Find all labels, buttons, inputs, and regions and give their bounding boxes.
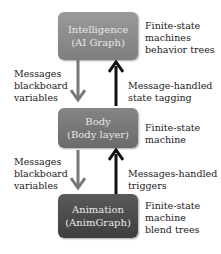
anim-to-body-label: Messages-handled triggers (128, 168, 217, 192)
animation-side-label: Finite-state machine blend trees (145, 200, 200, 236)
down-arrow-icon (70, 150, 86, 194)
body-subtitle: (Body layer) (58, 128, 138, 141)
up-arrow-icon (108, 148, 124, 194)
animation-subtitle: (AnimGraph) (58, 216, 138, 229)
body-to-anim-label: Messages blackboard variables (14, 156, 68, 192)
intelligence-box: Intelligence (AI Graph) (58, 12, 138, 60)
intel-to-body-label: Messages blackboard variables (14, 68, 68, 104)
body-to-intel-label: Message-handled state tagging (128, 80, 212, 104)
intelligence-subtitle: (AI Graph) (58, 36, 138, 49)
down-arrow-icon (70, 60, 86, 106)
intelligence-title: Intelligence (58, 23, 138, 36)
body-box: Body (Body layer) (58, 108, 138, 148)
intelligence-side-label: Finite-state machines behavior trees (145, 20, 215, 56)
animation-box: Animation (AnimGraph) (58, 194, 138, 238)
body-title: Body (58, 115, 138, 128)
animation-title: Animation (58, 203, 138, 216)
body-side-label: Finite-state machine (145, 122, 200, 146)
up-arrow-icon (108, 60, 124, 106)
